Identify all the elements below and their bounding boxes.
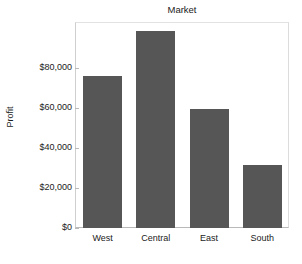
x-tick-label: West <box>76 233 129 243</box>
bar-central[interactable] <box>136 31 175 228</box>
chart-title: Market <box>75 4 289 15</box>
x-tick-label: East <box>183 233 236 243</box>
bar-south[interactable] <box>243 165 282 228</box>
y-axis-ticks: $0$20,000$40,000$60,000$80,000 <box>10 0 72 264</box>
bar-east[interactable] <box>190 109 229 228</box>
y-tick-label: $40,000 <box>14 142 72 152</box>
bar-chart: Market Profit $0$20,000$40,000$60,000$80… <box>0 0 302 264</box>
y-tick-label: $20,000 <box>14 182 72 192</box>
y-tick-label: $0 <box>14 222 72 232</box>
y-tick-mark <box>75 188 79 189</box>
bar-west[interactable] <box>83 76 122 228</box>
y-tick-mark <box>75 228 79 229</box>
y-tick-mark <box>75 148 79 149</box>
x-tick-label: Central <box>129 233 182 243</box>
y-tick-label: $80,000 <box>14 62 72 72</box>
x-tick-label: South <box>236 233 289 243</box>
y-tick-mark <box>75 68 79 69</box>
y-tick-mark <box>75 108 79 109</box>
bars-container <box>76 22 289 228</box>
y-tick-label: $60,000 <box>14 102 72 112</box>
